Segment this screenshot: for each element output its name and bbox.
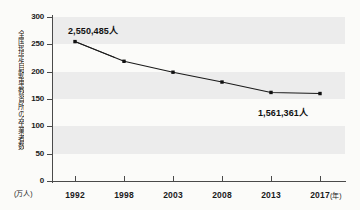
chart-figure: 300 250 200 150 100 50 0 (万人) 全国指定自動車教習所… xyxy=(0,0,360,210)
annotation-leader-line xyxy=(75,42,115,58)
annotation-first-point: 2,550,485人 xyxy=(68,26,118,37)
annotation-last-point: 1,561,361人 xyxy=(258,108,308,119)
annotation-leader-graphic xyxy=(0,0,360,210)
